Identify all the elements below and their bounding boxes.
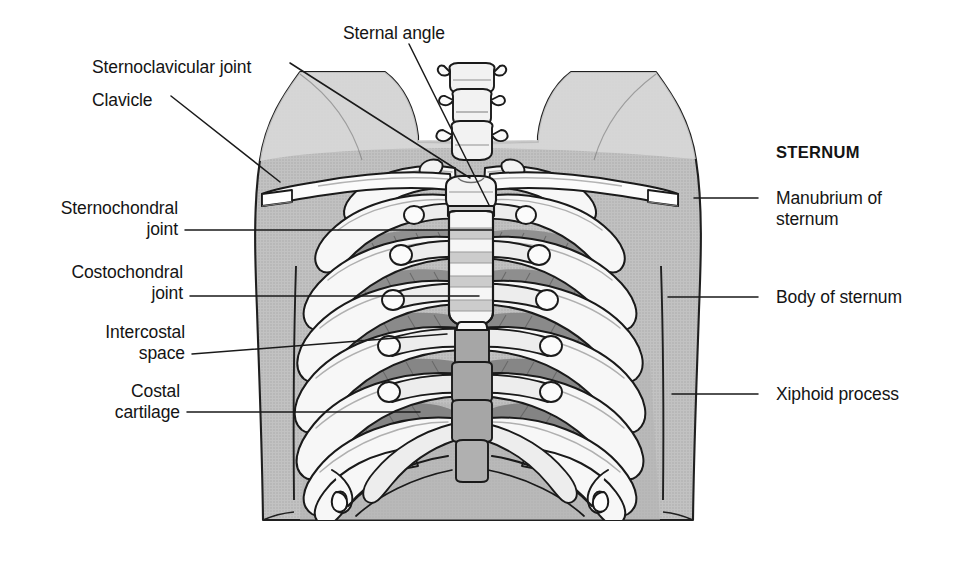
label-manubrium-of-sternum: Manubrium of sternum xyxy=(776,188,882,230)
label-xiphoid-process: Xiphoid process xyxy=(776,384,899,405)
label-body-of-sternum: Body of sternum xyxy=(776,287,902,308)
label-sternochondral-joint: Sternochondral joint xyxy=(30,198,178,240)
thoracic-vertebrae xyxy=(452,330,492,482)
label-sternum-heading: STERNUM xyxy=(776,142,860,163)
label-sternoclavicular-joint: Sternoclavicular joint xyxy=(92,57,251,78)
anatomy-figure: Sternal angle Sternoclavicular joint Cla… xyxy=(0,0,956,579)
cervical-vertebrae xyxy=(420,63,525,177)
label-clavicle: Clavicle xyxy=(92,90,152,111)
label-intercostal-space: Intercostal space xyxy=(72,322,185,364)
label-costal-cartilage: Costal cartilage xyxy=(72,381,180,423)
label-sternal-angle: Sternal angle xyxy=(343,23,445,44)
label-costochondral-joint: Costochondral joint xyxy=(37,262,183,304)
